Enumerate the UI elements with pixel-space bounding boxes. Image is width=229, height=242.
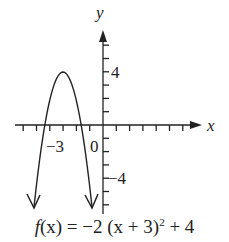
curve-arrow-left-icon [27,194,40,208]
function-caption: f(x) = −2 (x + 3)2 + 4 [0,216,229,238]
tick-label-4: 4 [111,63,120,82]
y-axis-label: y [94,3,104,22]
x-axis-label: x [206,116,215,135]
tick-label-neg4: −4 [108,169,127,188]
tick-label-neg3: −3 [46,137,64,156]
parabola-graph: x y −3 0 4 −4 [0,0,229,242]
tick-label-0: 0 [90,137,99,156]
caption-body: (x) = −2 (x + 3) [40,216,159,237]
y-axis-arrow-icon [99,30,107,42]
x-axis [15,125,196,131]
caption-tail: + 4 [165,216,195,237]
x-axis-arrow-icon [190,121,202,129]
